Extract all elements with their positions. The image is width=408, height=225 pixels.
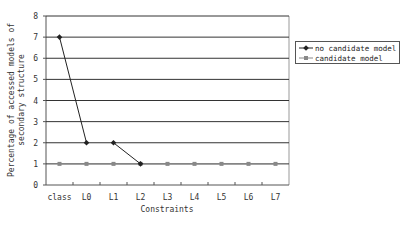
y-tick-label: 8 <box>33 12 38 21</box>
x-tick-label: class <box>47 193 71 202</box>
y-axis-title-line-1: Percentage of accessed models of <box>7 23 16 177</box>
legend-label: no candidate model <box>315 44 396 53</box>
x-tick-label: L6 <box>244 193 254 202</box>
series-line <box>60 37 87 143</box>
data-point-marker <box>112 162 116 166</box>
legend-item-candidate-model: candidate model <box>299 53 383 63</box>
data-point-marker <box>84 140 90 146</box>
y-tick-label: 1 <box>33 160 38 169</box>
data-point-marker <box>166 162 170 166</box>
y-tick-label: 2 <box>33 139 38 148</box>
square-line-marker-icon <box>299 53 313 63</box>
data-point-marker <box>247 162 251 166</box>
legend-item-no-candidate-model: no candidate model <box>299 43 396 53</box>
x-axis-title: Constraints <box>141 205 194 214</box>
legend-label: candidate model <box>315 54 383 63</box>
x-tick-label: L0 <box>82 193 92 202</box>
data-point-marker <box>58 162 62 166</box>
series-candidate-model <box>58 162 278 166</box>
y-tick-label: 0 <box>33 181 38 190</box>
gridlines <box>46 16 289 185</box>
series-line <box>114 143 141 164</box>
data-point-marker <box>220 162 224 166</box>
y-axis-ticks: 012345678 <box>33 12 46 190</box>
x-tick-label: L7 <box>271 193 281 202</box>
y-axis-title: Percentage of accessed models of seconda… <box>7 23 26 177</box>
y-axis-title-line-2: secondary structure <box>17 54 26 146</box>
data-point-marker <box>193 162 197 166</box>
y-tick-label: 4 <box>33 97 38 106</box>
x-tick-label: L3 <box>163 193 173 202</box>
data-point-marker <box>85 162 89 166</box>
x-tick-label: L5 <box>217 193 227 202</box>
data-point-marker <box>57 34 63 40</box>
data-point-marker <box>274 162 278 166</box>
y-tick-label: 7 <box>33 33 38 42</box>
y-tick-label: 5 <box>33 75 38 84</box>
diamond-line-marker-icon <box>299 43 313 53</box>
x-tick-label: L4 <box>190 193 200 202</box>
y-tick-label: 3 <box>33 118 38 127</box>
line-chart: 012345678 classL0L1L2L3L4L5L6L7 Constrai… <box>0 0 408 225</box>
x-tick-label: L2 <box>136 193 146 202</box>
x-tick-label: L1 <box>109 193 119 202</box>
y-tick-label: 6 <box>33 54 38 63</box>
chart-legend: no candidate model candidate model <box>295 41 400 64</box>
